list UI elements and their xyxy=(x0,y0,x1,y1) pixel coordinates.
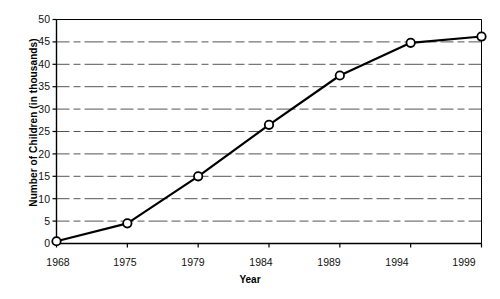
plot-area xyxy=(0,0,500,299)
data-line xyxy=(57,37,482,242)
axis-ticks xyxy=(53,20,482,248)
line-chart: Number of Children (in thousands) Year 5… xyxy=(0,0,500,299)
gridlines xyxy=(57,20,482,244)
